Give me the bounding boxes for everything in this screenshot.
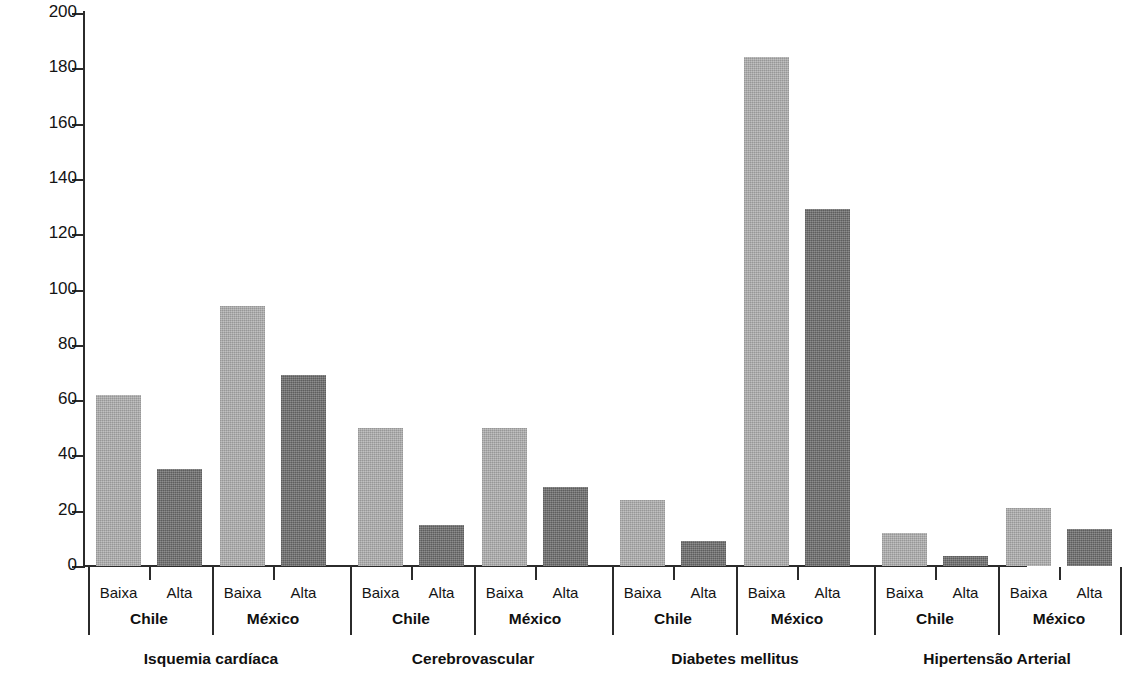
x-axis-disease-label: Cerebrovascular [328,650,618,668]
x-axis-tick-mark [935,567,937,580]
x-axis-tick-mark [797,567,799,580]
x-axis-tick-mark [1059,567,1061,580]
x-axis-country-label: México [210,610,336,628]
x-axis-country-label: México [472,610,598,628]
x-axis-tick-mark [273,567,275,580]
x-axis-disease-label: Hipertensão Arterial [852,650,1126,668]
x-axis-education-label: Alta [799,584,856,601]
x-axis-country-label: Chile [348,610,474,628]
x-axis-education-label: Baixa [352,584,409,601]
x-axis-tick-mark [149,567,151,580]
bar [281,375,326,566]
x-axis-education-label: Alta [151,584,208,601]
y-axis-tick-label: 100 [49,279,77,299]
bar [157,469,202,566]
x-axis-education-label: Baixa [214,584,271,601]
bar [943,556,988,566]
y-axis-tick-label: 20 [58,500,77,520]
y-axis-tick-label: 140 [49,168,77,188]
bar [419,525,464,566]
y-axis-tick-label: 0 [68,555,77,575]
y-axis-tick-label: 80 [58,334,77,354]
y-axis-title: Taxa padronizada por idade (por 100,000) [2,0,28,46]
x-axis-disease-label: Isquemia cardíaca [66,650,356,668]
x-axis-education-label: Alta [537,584,594,601]
x-axis-education-label: Baixa [1000,584,1057,601]
bar [744,57,789,566]
x-axis-country-label: México [734,610,860,628]
y-axis-tick-label: 40 [58,444,77,464]
x-axis-education-label: Alta [413,584,470,601]
x-axis-education-label: Alta [937,584,994,601]
x-axis-tick-mark [673,567,675,580]
x-axis-disease-label: Diabetes mellitus [590,650,880,668]
x-axis-tick-mark [535,567,537,580]
bar [1006,508,1051,566]
x-axis-country-label: Chile [872,610,998,628]
bar [681,541,726,566]
bar [96,395,141,566]
bar [220,306,265,566]
bar [805,209,850,566]
x-axis-education-label: Baixa [738,584,795,601]
plot-area: 200180160140120100806040200 [83,13,1027,566]
x-axis-education-label: Alta [675,584,732,601]
bar [358,428,403,566]
x-axis-country-label: Chile [610,610,736,628]
y-axis-tick-label: 120 [49,223,77,243]
y-axis-tick-label: 160 [49,113,77,133]
x-axis-education-label: Baixa [876,584,933,601]
bar [482,428,527,566]
bar [620,500,665,566]
bar [1067,529,1112,566]
y-axis-tick-label: 180 [49,57,77,77]
x-axis-education-label: Baixa [614,584,671,601]
x-axis-tick-mark [411,567,413,580]
y-axis-title-container: Taxa padronizada por idade (por 100,000) [0,20,26,580]
x-axis-education-label: Alta [275,584,332,601]
bar [882,533,927,566]
x-axis-country-label: México [996,610,1122,628]
bar [543,487,588,566]
x-axis-country-label: Chile [86,610,212,628]
x-axis-education-label: Alta [1061,584,1118,601]
x-axis-education-label: Baixa [90,584,147,601]
x-axis-education-label: Baixa [476,584,533,601]
y-axis-tick-label: 60 [58,389,77,409]
y-axis-tick-label: 200 [49,2,77,22]
